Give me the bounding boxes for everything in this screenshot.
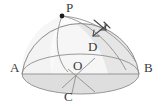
geometry-figure-container: P A B C D O (0, 0, 159, 106)
label-p: P (66, 0, 73, 15)
label-d: D (88, 39, 97, 54)
label-c: C (64, 89, 73, 104)
hemisphere-diagram: P A B C D O (0, 0, 159, 106)
point-p-dot (60, 14, 65, 19)
label-o: O (73, 58, 82, 73)
label-a: A (10, 60, 20, 75)
label-b: B (144, 60, 153, 75)
